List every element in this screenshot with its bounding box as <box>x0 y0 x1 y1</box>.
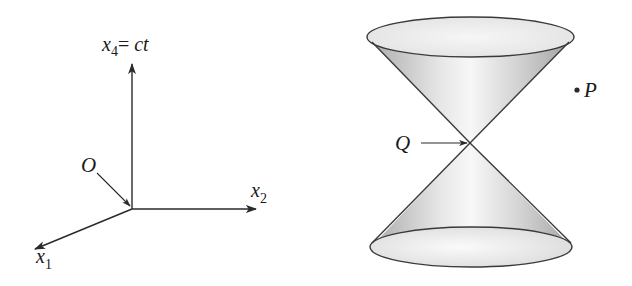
figure-canvas: x4= ct x2 x1 O Q P <box>0 0 632 286</box>
x2-axis-label: x2 <box>250 179 267 206</box>
point-label-p: P <box>583 78 597 102</box>
x1-axis-label: x1 <box>35 245 52 272</box>
lower-cone-base <box>370 227 572 267</box>
event-point-p <box>574 87 579 92</box>
origin-pointer-arrow <box>97 173 130 206</box>
upper-cone-opening <box>367 17 574 57</box>
apex-label-q: Q <box>395 131 410 155</box>
x1-axis <box>35 209 132 249</box>
x4-axis-label: x4= ct <box>101 33 149 59</box>
coordinate-axes: x4= ct x2 x1 O <box>35 33 267 272</box>
light-cone: Q P <box>367 17 597 267</box>
origin-label: O <box>81 153 96 177</box>
